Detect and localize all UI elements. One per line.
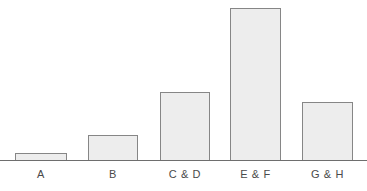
bar-chart: A B C & D E & F G & H xyxy=(0,0,367,191)
plot-area xyxy=(0,0,367,162)
x-label-c-and-d: C & D xyxy=(160,167,210,181)
x-label-a: A xyxy=(15,167,67,181)
x-axis-line xyxy=(0,160,367,161)
x-label-g-and-h: G & H xyxy=(302,167,353,181)
bar-e-and-f[interactable] xyxy=(230,8,281,161)
x-label-b: B xyxy=(88,167,138,181)
bar-g-and-h[interactable] xyxy=(302,102,353,161)
x-axis-labels: A B C & D E & F G & H xyxy=(0,162,367,191)
bar-c-and-d[interactable] xyxy=(160,92,210,161)
bar-b[interactable] xyxy=(88,135,138,161)
x-label-e-and-f: E & F xyxy=(230,167,281,181)
